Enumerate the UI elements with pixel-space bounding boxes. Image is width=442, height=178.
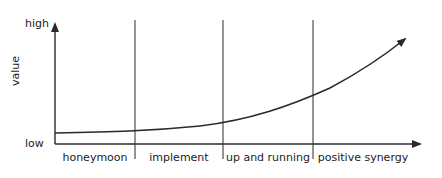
stage-implement: implement [135,151,223,164]
y-axis-label: value [9,56,22,86]
stage-positive-synergy: positive synergy [313,151,413,164]
stage-dividers [135,20,313,159]
stage-honeymoon: honeymoon [55,151,135,164]
stage-up-and-running: up and running [223,151,313,164]
y-tick-high: high [25,17,49,30]
y-tick-low: low [25,137,44,150]
value-curve [55,39,405,133]
